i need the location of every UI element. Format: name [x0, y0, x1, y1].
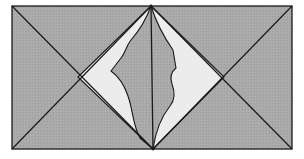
- bottom-apex-point: [152, 148, 155, 151]
- diagram-canvas: [0, 0, 304, 159]
- geometric-diagram: [0, 0, 304, 159]
- top-apex-point: [150, 5, 153, 8]
